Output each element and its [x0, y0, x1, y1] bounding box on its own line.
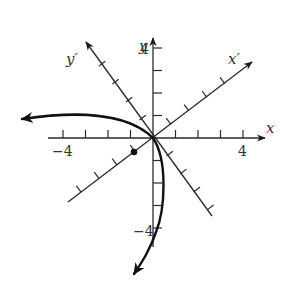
y-tick-label-4: 4 [140, 41, 149, 57]
x-tick-label-4: 4 [238, 143, 247, 159]
x-prime-tick [112, 159, 117, 165]
x-prime-tick [76, 186, 81, 192]
x-prime-tick [202, 91, 207, 97]
y-tick-label-neg4: −4 [133, 223, 154, 239]
x-prime-tick [220, 77, 225, 83]
x-prime-tick [94, 172, 99, 178]
x-axis-label: x [266, 119, 275, 137]
x-prime-tick [166, 118, 171, 124]
y-prime-tick [194, 187, 200, 192]
x-tick-label-neg4: −4 [52, 143, 73, 159]
y-prime-tick [180, 169, 186, 174]
y-prime-axis [86, 42, 212, 216]
diagram-canvas: x y x′ y′ −4 4 4 −4 [0, 0, 293, 282]
y-prime-axis-label: y′ [65, 50, 78, 68]
x-prime-axis-label: x′ [228, 50, 240, 68]
x-prime-tick [184, 105, 189, 111]
focus-point [131, 149, 138, 156]
y-prime-tick [207, 205, 213, 210]
